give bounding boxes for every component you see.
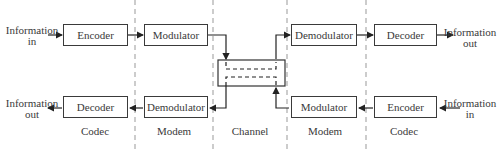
section-codec-right: Codec bbox=[364, 125, 444, 137]
top-decoder-block: Decoder bbox=[374, 24, 437, 46]
section-channel: Channel bbox=[210, 125, 290, 137]
top-input-label: Information in bbox=[2, 25, 62, 47]
top-output-label: Information out bbox=[437, 27, 503, 49]
bottom-demodulator-block: Demodulator bbox=[144, 96, 208, 118]
section-modem-left: Modem bbox=[134, 125, 214, 137]
bottom-decoder-block: Decoder bbox=[63, 96, 128, 118]
bottom-output-label: Information out bbox=[2, 98, 62, 120]
section-codec-left: Codec bbox=[55, 125, 135, 137]
bottom-modulator-block: Modulator bbox=[291, 96, 357, 118]
section-modem-right: Modem bbox=[285, 125, 365, 137]
bottom-input-label: Information in bbox=[437, 98, 503, 120]
bottom-encoder-block: Encoder bbox=[374, 96, 437, 118]
top-encoder-block: Encoder bbox=[63, 24, 128, 46]
top-demodulator-block: Demodulator bbox=[291, 24, 357, 46]
top-modulator-block: Modulator bbox=[144, 24, 208, 46]
